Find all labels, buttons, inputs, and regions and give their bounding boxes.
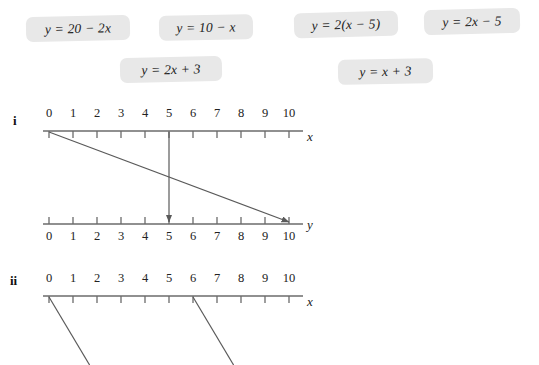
diagram-graphics <box>0 0 539 365</box>
worksheet-page: y = 20 − 2xy = 10 − xy = 2(x − 5)y = 2x … <box>0 0 539 365</box>
mapping-line <box>193 297 234 365</box>
mapping-arrow-lines <box>49 132 289 365</box>
axis-lines <box>43 131 303 303</box>
mapping-line <box>49 297 90 365</box>
